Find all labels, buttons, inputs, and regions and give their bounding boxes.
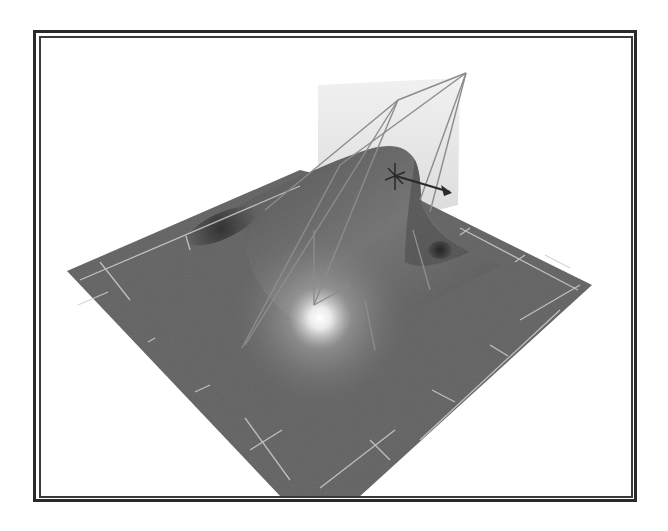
shadow-region-small (428, 241, 452, 259)
3d-viewport[interactable] (0, 0, 668, 531)
specular-highlight (230, 228, 410, 408)
